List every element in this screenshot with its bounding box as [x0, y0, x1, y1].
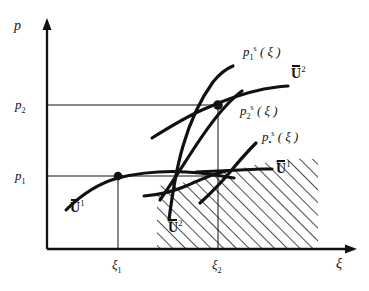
y-axis-arrow: [43, 18, 52, 30]
figure-svg: [0, 0, 369, 291]
y-axis-label: p: [14, 19, 21, 33]
supply-curve-1-label: p1s ( ξ ): [243, 45, 281, 62]
y-tick-label-p1: p1: [15, 169, 26, 186]
diagram-canvas: p ξ p2 p1 ξ1 ξ2 p1s ( ξ ) p2s ( ξ ) p•s …: [0, 0, 369, 291]
x-tick-label-xi2: ξ2: [212, 258, 222, 275]
x-tick-label-xi1: ξ1: [112, 258, 122, 275]
supply-curve-2-label: p2s ( ξ ): [240, 104, 278, 121]
y-tick-label-p2: p2: [15, 98, 26, 115]
u-bar-2-upper-right-label: U2: [291, 65, 305, 81]
x-axis-label: ξ: [336, 257, 342, 271]
u-bar-1-lower-left-label: U1: [70, 199, 84, 215]
equilibrium-point-1: [114, 172, 123, 181]
x-axis-arrow: [345, 245, 357, 254]
equilibrium-point-2: [213, 100, 223, 110]
supply-curve-star-label: p•s ( ξ ): [262, 130, 298, 147]
u-bar-1-right-label: U1: [276, 160, 290, 176]
u-bar-2-bottom-label: U2: [168, 219, 182, 235]
